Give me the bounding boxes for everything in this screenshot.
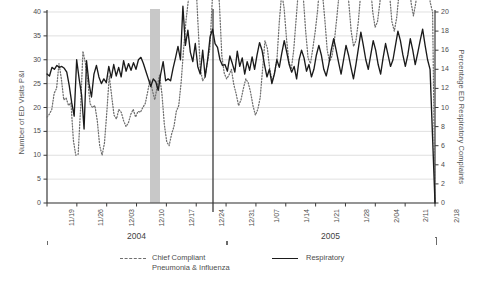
y-tick-label-left: 15: [25, 127, 41, 134]
y-tick-label-right: 20: [441, 8, 457, 15]
y-tick-label-left: 10: [25, 151, 41, 158]
x-tick-label: 2/11: [422, 209, 429, 222]
x-tick-label: 12/03: [128, 209, 135, 227]
y-tick-label-right: 14: [441, 65, 457, 72]
y-tick-label-right: 12: [441, 84, 457, 91]
legend-label-pni: Chief Compliant Pneumonia & Influenza: [152, 253, 230, 272]
y-axis-right-title: Percentage ED Respiratory Complaints: [457, 50, 466, 180]
y-tick-label-right: 10: [441, 104, 457, 111]
y-tick-label-left: 25: [25, 80, 41, 87]
x-tick-label: 1/21: [333, 209, 340, 223]
y-tick-label-left: 5: [25, 175, 41, 182]
x-tick-label: 12/10: [158, 209, 165, 227]
y-tick-label-left: 0: [25, 199, 41, 206]
legend-swatch-respiratory: [272, 258, 298, 259]
x-tick-label: 2/04: [392, 209, 399, 223]
y-tick-label-right: 16: [441, 46, 457, 53]
y-tick-label-left: 30: [25, 56, 41, 63]
legend-swatch-pni: [120, 258, 146, 259]
x-tick-label: 12/24: [217, 209, 224, 227]
x-tick-label: 1/07: [273, 209, 280, 223]
y-tick-label-right: 18: [441, 27, 457, 34]
y-tick-label-left: 40: [25, 8, 41, 15]
group-2005-label: 2005: [226, 231, 435, 241]
x-tick-label: 11/19: [68, 209, 75, 226]
y-tick-label-right: 2: [441, 180, 457, 187]
series-line-pni: [47, 0, 435, 203]
x-tick-label: 2/18: [452, 209, 459, 223]
chart-figure: Number of ED Visits P&I Percentage ED Re…: [0, 0, 482, 284]
y-tick-label-right: 0: [441, 199, 457, 206]
group-2004-label: 2004: [47, 231, 226, 241]
legend-label-respiratory: Respiratory: [306, 253, 344, 263]
y-tick-label-right: 6: [441, 142, 457, 149]
chart-legend: Chief Compliant Pneumonia & Influenza Re…: [120, 252, 420, 280]
x-tick-label: 1/28: [363, 209, 370, 223]
y-tick-label-right: 8: [441, 123, 457, 130]
grey-band-annotation: [150, 9, 160, 203]
y-tick-label-right: 4: [441, 161, 457, 168]
y-tick-label-left: 20: [25, 104, 41, 111]
x-tick-label: 1/14: [303, 209, 310, 223]
x-tick-label: 12/31: [247, 209, 254, 227]
y-tick-label-left: 35: [25, 32, 41, 39]
x-tick-label: 11/26: [97, 209, 104, 226]
x-tick-label: 12/17: [187, 209, 194, 227]
